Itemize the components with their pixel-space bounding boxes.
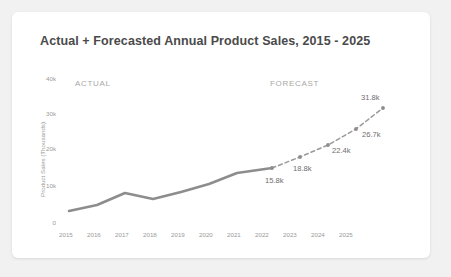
forecast-marker-2022	[270, 166, 274, 170]
y-tick-label-10k: 10k	[46, 182, 57, 189]
data-label-22-4k: 22.4k	[332, 146, 351, 155]
data-label-26-7k: 26.7k	[362, 130, 381, 139]
x-tick-label-2018: 2018	[143, 231, 157, 238]
x-tick-label-2025: 2025	[339, 231, 353, 238]
annotation-actual: ACTUAL	[75, 79, 111, 88]
data-label-18-8k: 18.8k	[293, 164, 312, 173]
y-tick-label-30k: 30k	[46, 110, 57, 117]
data-label-15-8k: 15.8k	[265, 176, 284, 185]
x-tick-label-2020: 2020	[199, 231, 213, 238]
screenshot-root: Actual + Forecasted Annual Product Sales…	[0, 0, 451, 277]
chart-card: Actual + Forecasted Annual Product Sales…	[12, 12, 430, 258]
forecast-marker-2026	[381, 106, 385, 110]
y-tick-label-0: 0	[53, 219, 57, 226]
x-tick-label-2022: 2022	[255, 231, 269, 238]
data-label-31-8k: 31.8k	[361, 93, 380, 102]
forecast-marker-2023	[298, 155, 302, 159]
series-actual-line	[69, 168, 272, 211]
forecast-marker-2025	[354, 127, 358, 131]
x-tick-label-2024: 2024	[311, 231, 325, 238]
x-tick-label-2019: 2019	[171, 231, 185, 238]
y-tick-label-40k: 40k	[46, 75, 57, 82]
x-tick-label-2023: 2023	[283, 231, 297, 238]
y-axis-title: Product Sales (Thousands)	[39, 122, 46, 197]
line-chart-svg: 40k 30k 20k 10k 0 Product Sales (Thousan…	[12, 12, 430, 258]
annotation-forecast: FORECAST	[270, 79, 319, 88]
forecast-marker-2024	[326, 143, 330, 147]
x-tick-label-2015: 2015	[59, 231, 73, 238]
x-tick-label-2017: 2017	[115, 231, 129, 238]
chart-plot-area: 40k 30k 20k 10k 0 Product Sales (Thousan…	[12, 12, 430, 258]
x-tick-label-2021: 2021	[227, 231, 241, 238]
y-tick-label-20k: 20k	[46, 145, 57, 152]
x-tick-label-2016: 2016	[87, 231, 101, 238]
